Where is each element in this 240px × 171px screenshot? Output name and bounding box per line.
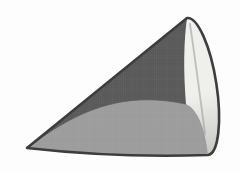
- cone-illustration: [0, 0, 240, 171]
- page: [0, 0, 240, 171]
- halftone-texture-overlay: [0, 0, 240, 171]
